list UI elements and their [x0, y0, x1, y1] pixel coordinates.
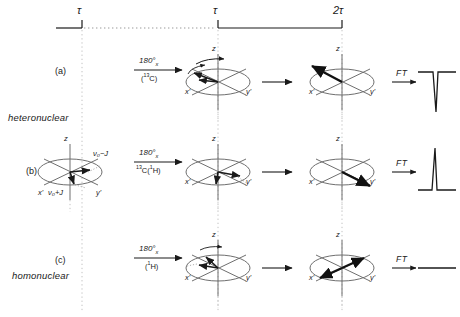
row-a-end-axis-y: y' — [370, 88, 375, 96]
row-a-pulse-top: 180°x — [139, 57, 158, 67]
row-b-pulse-bottom: 13C(1H) — [136, 165, 161, 174]
row-c-mid-axis-y: y' — [246, 274, 251, 282]
vector-frame-a-end — [310, 54, 374, 122]
row-a-end-axis-z: z — [336, 45, 340, 53]
timeline-tick-label-1: τ — [77, 5, 81, 16]
row-a-mid-axis-x: x' — [185, 88, 190, 96]
row-a-mid-axis-z: z — [212, 45, 216, 53]
row-a-ft-label: FT — [396, 69, 407, 78]
row-b-freq-upper: ν₀−J — [93, 150, 108, 158]
row-c-ft-label: FT — [396, 255, 407, 264]
spectrum-a-negative-peak — [418, 72, 456, 112]
vector-frame-b-end — [310, 144, 374, 212]
row-a-id: (a) — [55, 67, 66, 76]
row-b-start-axis-z: z — [64, 135, 68, 143]
row-b-mid-axis-z: z — [212, 135, 216, 143]
row-b-ft-label: FT — [396, 159, 407, 168]
spectrum-b-positive-peak — [418, 148, 456, 190]
row-c-mid-axis-x: x' — [185, 274, 190, 282]
timeline-tick-label-2: τ — [213, 5, 217, 16]
row-c-pulse-top: 180°x — [139, 245, 158, 255]
row-b-end-axis-z: z — [336, 135, 340, 143]
row-c-class-label: homonuclear — [12, 271, 69, 281]
vector-frame-c-end — [310, 240, 374, 308]
figure-canvas: τ τ 2τ (a) heteronuclear 180°x (13C) z x… — [0, 0, 460, 317]
row-b-start-axis-x: x' — [38, 189, 43, 197]
row-c-graphics — [134, 240, 456, 308]
row-a-class-label: heteronuclear — [8, 113, 69, 123]
vector-frame-b-mid — [186, 144, 250, 212]
timeline-tick-label-3: 2τ — [333, 5, 343, 16]
row-a-pulse-bottom: (13C) — [141, 73, 157, 82]
row-b-start-axis-y: y' — [96, 189, 101, 197]
row-b-mid-axis-y: y' — [246, 178, 251, 186]
vector-frame-c-mid — [186, 240, 250, 308]
timeline-dropline-group — [82, 30, 342, 312]
row-b-freq-lower: ν₀+J — [48, 189, 63, 197]
figure-vector-graphics — [0, 0, 460, 317]
row-a-end-axis-x: x' — [309, 88, 314, 96]
timeline-axis — [56, 20, 342, 28]
row-c-mid-axis-z: z — [212, 231, 216, 239]
row-b-id: (b) — [26, 167, 37, 176]
row-c-end-axis-z: z — [336, 231, 340, 239]
row-c-end-axis-y: y' — [370, 274, 375, 282]
row-a-graphics — [134, 54, 456, 122]
row-c-id: (c) — [55, 256, 66, 265]
row-b-end-axis-x: x' — [309, 178, 314, 186]
row-a-mid-axis-y: y' — [246, 88, 251, 96]
row-c-pulse-bottom: (1H) — [145, 261, 158, 270]
row-b-mid-axis-x: x' — [185, 178, 190, 186]
row-b-end-axis-y: y' — [370, 178, 375, 186]
row-c-end-axis-x: x' — [309, 274, 314, 282]
vector-frame-a-mid — [186, 54, 250, 122]
row-b-pulse-top: 180°x — [139, 149, 158, 159]
